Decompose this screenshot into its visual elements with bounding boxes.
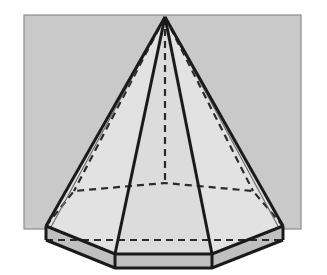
- heptagonal-pyramid-figure: Heptagonal pyramid in perspective: [0, 0, 327, 275]
- figure-container: Heptagonal pyramid in perspective: [0, 0, 327, 275]
